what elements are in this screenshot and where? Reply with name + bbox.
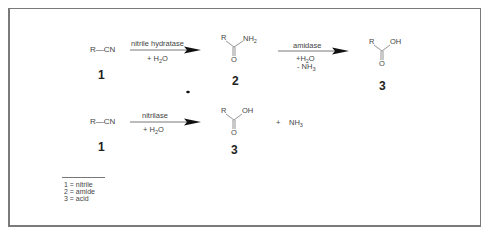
byproduct-ammonia: NH3 — [289, 119, 303, 127]
legend-divider — [62, 177, 105, 178]
reagent-text: - NH — [297, 62, 312, 71]
amide-r-group: R — [221, 34, 226, 42]
legend-item-acid: 3 = acid — [64, 195, 89, 202]
subscript: 3 — [312, 66, 315, 72]
label-compound-3-row1: 3 — [379, 80, 386, 92]
acid-oh-group-2: OH — [242, 107, 253, 115]
label-compound-1-row1: 1 — [98, 69, 105, 81]
acid-oxygen-1: O — [379, 60, 385, 68]
acid-oxygen-2: O — [231, 129, 237, 137]
legend-item-amide: 2 = amide — [64, 188, 95, 195]
amide-structure-bonds — [226, 41, 243, 56]
acid-structure-bonds-1 — [374, 45, 390, 60]
stray-dot — [186, 91, 190, 94]
reagent-text: O — [158, 125, 164, 134]
label-compound-3-row2: 3 — [231, 144, 238, 156]
reagent-text: + H — [147, 54, 159, 63]
reactant-nitrile-1: R—CN — [90, 46, 115, 54]
enzyme-nitrile-hydratase: nitrile hydratase — [131, 40, 184, 48]
byproduct-text: NH — [289, 118, 300, 127]
label-compound-1-row2: 1 — [98, 141, 105, 153]
subscript: 3 — [300, 122, 303, 128]
reactant-nitrile-2: R—CN — [90, 118, 115, 126]
acid-r-group-2: R — [221, 107, 226, 115]
reagent-text: O — [162, 54, 168, 63]
subscript: 2 — [254, 38, 257, 44]
reagent-water-3: + H2O — [143, 126, 164, 134]
reagent-water-1: + H2O — [147, 55, 168, 63]
reagent-ammonia-loss: - NH3 — [297, 63, 315, 71]
acid-r-group-1: R — [369, 38, 374, 46]
reagent-text: + H — [143, 125, 155, 134]
enzyme-amidase: amidase — [293, 42, 321, 50]
legend-item-nitrile: 1 = nitrile — [64, 181, 93, 188]
plus-sign: + — [276, 119, 280, 127]
acid-structure-bonds-2 — [226, 114, 242, 129]
label-compound-2: 2 — [232, 75, 239, 87]
enzyme-nitrilase: nitrilase — [142, 112, 168, 120]
amide-oxygen: O — [231, 56, 237, 64]
amide-nh2-group: NH2 — [243, 35, 257, 43]
acid-oh-group-1: OH — [390, 38, 401, 46]
group-text: NH — [243, 34, 254, 43]
